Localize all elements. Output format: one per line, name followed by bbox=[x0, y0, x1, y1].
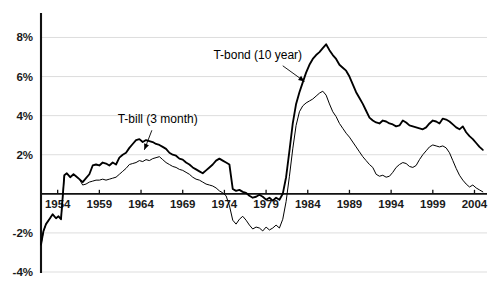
x-tick-label-1974: 1974 bbox=[212, 198, 238, 210]
series-line-tbond bbox=[41, 44, 483, 244]
x-tick-label-1989: 1989 bbox=[337, 198, 363, 210]
gridlines bbox=[41, 37, 487, 272]
y-tick-label--2%: -2% bbox=[13, 227, 33, 239]
y-tick-label--4%: -4% bbox=[13, 266, 33, 278]
series-annotations: T-bond (10 year)T-bill (3 month) bbox=[118, 48, 305, 150]
x-tick-label-1964: 1964 bbox=[128, 198, 154, 210]
annotation-label-tbill: T-bill (3 month) bbox=[118, 112, 198, 126]
series-line-tbill bbox=[41, 91, 483, 244]
x-tick-label-1999: 1999 bbox=[420, 198, 446, 210]
data-series bbox=[41, 44, 483, 244]
y-tick-label-4%: 4% bbox=[16, 110, 33, 122]
chart-canvas: 8%6%4%2%-2%-4% 1954195919641969197419791… bbox=[0, 0, 495, 290]
x-tick-label-1959: 1959 bbox=[87, 198, 113, 210]
x-tick-label-1994: 1994 bbox=[378, 198, 404, 210]
x-tick-label-1969: 1969 bbox=[170, 198, 196, 210]
y-tick-label-2%: 2% bbox=[16, 149, 33, 161]
x-tick-label-2004: 2004 bbox=[462, 198, 488, 210]
y-tick-label-6%: 6% bbox=[16, 71, 33, 83]
annotation-arrowhead-tbill bbox=[144, 143, 149, 150]
annotation-label-tbond: T-bond (10 year) bbox=[213, 48, 302, 62]
y-tick-label-8%: 8% bbox=[16, 31, 33, 43]
x-tick-label-1984: 1984 bbox=[295, 198, 321, 210]
y-axis-tick-labels: 8%6%4%2%-2%-4% bbox=[13, 31, 33, 278]
interest-rate-chart: 8%6%4%2%-2%-4% 1954195919641969197419791… bbox=[0, 0, 495, 290]
x-tick-label-1954: 1954 bbox=[45, 198, 71, 210]
